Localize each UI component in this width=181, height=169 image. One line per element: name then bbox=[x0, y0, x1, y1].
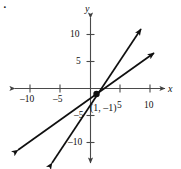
y-tick-label-10: 10 bbox=[70, 30, 80, 40]
x-tick-label--5: –5 bbox=[53, 95, 63, 105]
data-lines-group bbox=[18, 29, 154, 163]
intersection-point-label: (1, –1) bbox=[90, 103, 117, 113]
x-tick-label--10: –10 bbox=[20, 95, 34, 105]
coordinate-plane bbox=[0, 0, 181, 169]
y-axis-group bbox=[87, 18, 95, 163]
graph-figure: · –10 –5 bbox=[0, 0, 181, 169]
x-tick-label-10: 10 bbox=[144, 101, 154, 111]
y-tick-label--10: –10 bbox=[68, 138, 82, 148]
series-shallower-line bbox=[18, 53, 154, 150]
x-tick-label-5: 5 bbox=[117, 101, 122, 111]
y-tick-label-5: 5 bbox=[76, 57, 81, 67]
x-axis-label: x bbox=[168, 84, 172, 94]
y-tick-label--5: –5 bbox=[74, 111, 84, 121]
y-axis-label: y bbox=[85, 4, 89, 14]
intersection-point-marker bbox=[93, 91, 99, 97]
